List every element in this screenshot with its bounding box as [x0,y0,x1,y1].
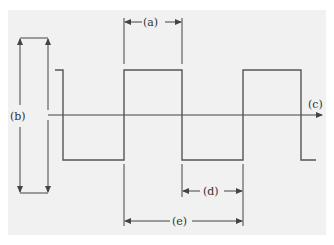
label-d: (d) [203,185,219,198]
label-e: (e) [172,215,187,228]
label-b: (b) [10,110,26,123]
square-wave-diagram: (c) (b) (a) (d) (e) [0,0,334,245]
diagram-background [8,10,326,235]
label-a: (a) [143,16,158,29]
label-c: (c) [308,98,323,111]
